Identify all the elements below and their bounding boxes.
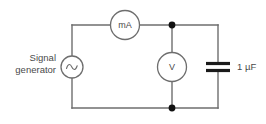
ammeter-label: mA	[118, 20, 132, 30]
milliammeter-symbol: mA	[111, 11, 140, 40]
signal-generator-label-line1: Signal	[2, 52, 56, 64]
voltmeter-label: V	[169, 62, 175, 72]
top-junction-dot	[169, 22, 176, 29]
bottom-junction-dot	[169, 105, 176, 112]
circuit-diagram: mA V Signal generator 1 µF	[0, 0, 266, 124]
signal-generator-label-line2: generator	[2, 64, 56, 76]
capacitor-value-label: 1 µF	[237, 61, 256, 72]
signal-generator-symbol	[61, 56, 83, 78]
signal-generator-label: Signal generator	[2, 52, 56, 75]
circuit-wires	[72, 25, 218, 108]
capacitor-symbol	[206, 64, 230, 71]
voltmeter-symbol: V	[158, 53, 187, 82]
